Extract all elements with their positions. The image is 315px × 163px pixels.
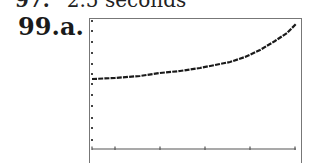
graph-plot xyxy=(0,0,315,163)
y-axis-ticks xyxy=(91,20,93,141)
function-curve xyxy=(92,24,296,79)
